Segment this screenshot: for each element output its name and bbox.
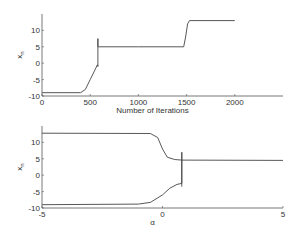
y-tick-label: 10 [31,138,40,147]
bottom-plot: -10-50510-505αxn [15,126,286,227]
y-tick-label: -5 [33,188,41,197]
x-tick-label: 0 [160,210,165,219]
series-line [42,21,235,93]
x-tick-label: -5 [38,210,46,219]
x-tick-label: 0 [40,98,45,107]
x-tick-label: 500 [84,98,98,107]
y-tick-label: 5 [36,155,41,164]
series-line [42,133,283,160]
series-line [42,152,182,205]
y-axis-label: xn [15,163,25,170]
figure: -10-505100500100015002000Number of Itera… [0,0,299,242]
x-tick-label: 2000 [226,98,244,107]
y-tick-label: -5 [33,76,41,85]
y-tick-label: 0 [36,59,41,68]
y-tick-label: -10 [28,92,40,101]
top-plot: -10-505100500100015002000Number of Itera… [15,14,283,115]
y-axis-label: xn [15,51,25,58]
y-tick-label: 5 [36,43,41,52]
x-axis-label: α [150,218,155,227]
y-tick-label: 0 [36,171,41,180]
y-tick-label: 10 [31,26,40,35]
x-axis-label: Number of Iterations [116,106,188,115]
x-tick-label: 5 [281,210,286,219]
